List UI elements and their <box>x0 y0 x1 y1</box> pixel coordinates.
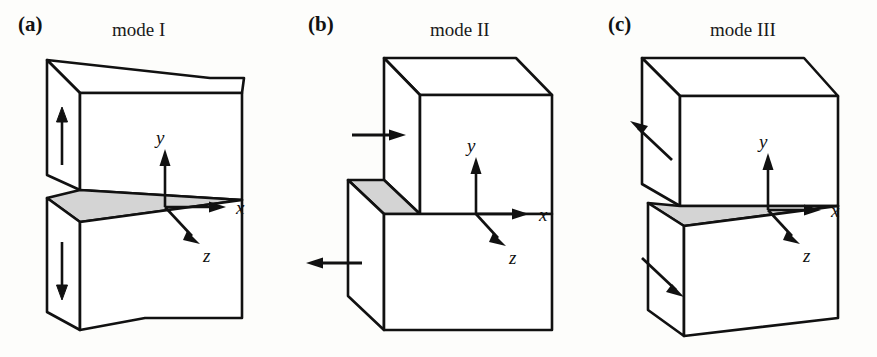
y-axis-label-mode-ii: y <box>465 135 476 156</box>
panel-mode-iii: (c) mode III <box>580 0 877 357</box>
x-axis-label-mode-iii: x <box>830 200 840 221</box>
upper-block-front-face <box>420 95 552 214</box>
mode-i-drawing: y x z <box>0 0 300 357</box>
z-axis-label-mode-i: z <box>202 245 211 266</box>
x-axis-label-mode-i: x <box>235 197 245 218</box>
panel-mode-i: (a) mode I <box>0 0 300 357</box>
lower-block-front-face <box>80 200 242 330</box>
z-axis-label-mode-ii: z <box>508 247 517 268</box>
lower-block-left-face <box>47 198 80 330</box>
mode-ii-drawing: y x z <box>290 0 590 357</box>
y-axis-label-mode-iii: y <box>757 131 768 152</box>
lower-block-front-face <box>384 214 552 330</box>
x-axis-label-mode-ii: x <box>538 204 548 225</box>
lower-block-front-face <box>684 206 838 336</box>
z-axis-label-mode-iii: z <box>802 245 811 266</box>
fracture-modes-figure: (a) mode I <box>0 0 877 357</box>
panel-mode-ii: (b) mode II <box>290 0 590 357</box>
y-axis-label-mode-i: y <box>154 127 165 148</box>
mode-iii-drawing: y x z <box>580 0 877 357</box>
